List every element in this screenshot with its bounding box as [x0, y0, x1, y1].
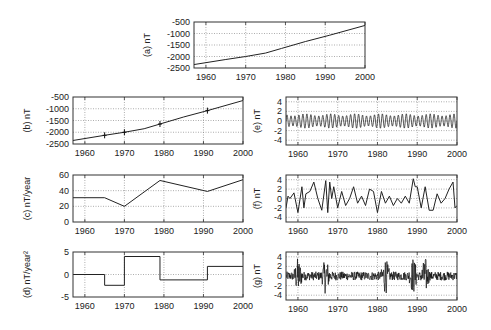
y-axis-label: (c) nT/year — [22, 177, 32, 221]
x-tick-label: 1990 — [407, 304, 427, 314]
x-tick-label: 1960 — [75, 301, 95, 311]
x-tick-label: 1990 — [407, 149, 427, 159]
x-tick-label: 1980 — [367, 149, 387, 159]
x-tick-label: 2000 — [233, 226, 253, 236]
x-tick-label: 2000 — [447, 149, 467, 159]
panel-d: 19601970198019902000-505(d) nT/year² — [22, 247, 253, 311]
y-axis-label: (d) nT/year² — [22, 251, 32, 298]
y-tick-label: -2500 — [167, 63, 190, 73]
y-tick-label: -4 — [274, 212, 282, 222]
y-tick-label: 5 — [64, 247, 69, 257]
series-line — [73, 180, 243, 207]
x-tick-label: 1980 — [367, 226, 387, 236]
panel-a: 19601970198019902000-500-1000-1500-2000-… — [142, 17, 375, 82]
y-tick-label: 4 — [277, 175, 282, 185]
x-tick-label: 1960 — [288, 226, 308, 236]
y-tick-label: 0 — [64, 217, 69, 227]
x-tick-label: 1980 — [367, 304, 387, 314]
y-tick-label: -2 — [274, 203, 282, 213]
panel-f: 19601970198019902000-4-2024(f) nT — [252, 175, 467, 236]
x-tick-label: 1980 — [154, 226, 174, 236]
y-tick-label: -1500 — [167, 40, 190, 50]
x-tick-label: 1990 — [315, 72, 335, 82]
y-tick-label: 0 — [277, 116, 282, 126]
x-tick-label: 1960 — [75, 226, 95, 236]
x-tick-label: 2000 — [447, 226, 467, 236]
y-tick-label: -1000 — [167, 29, 190, 39]
y-axis-label: (b) nT — [22, 108, 32, 133]
y-tick-label: 0 — [277, 271, 282, 281]
x-tick-label: 1970 — [114, 226, 134, 236]
y-axis-label: (e) nT — [252, 109, 262, 134]
y-tick-label: -4 — [274, 290, 282, 300]
x-tick-label: 1960 — [75, 148, 95, 158]
x-tick-label: 1990 — [193, 301, 213, 311]
y-axis-label: (a) nT — [142, 33, 152, 58]
panel-b: 19601970198019902000-500-1000-1500-2000-… — [22, 92, 253, 158]
y-tick-label: 2 — [277, 184, 282, 194]
y-tick-label: -2000 — [167, 52, 190, 62]
panel-c: 196019701980199020000204060(c) nT/year — [22, 170, 253, 236]
x-tick-label: 1980 — [275, 72, 295, 82]
series-line — [73, 257, 243, 286]
x-tick-label: 2000 — [233, 148, 253, 158]
y-tick-label: 4 — [277, 252, 282, 262]
x-tick-label: 1960 — [288, 304, 308, 314]
y-tick-label: -5 — [61, 292, 69, 302]
x-tick-label: 1960 — [288, 149, 308, 159]
y-tick-label: 2 — [277, 106, 282, 116]
y-axis-label: (g) nT — [252, 264, 262, 289]
y-tick-label: -500 — [172, 17, 190, 27]
figure: 19601970198019902000-500-1000-1500-2000-… — [0, 0, 491, 330]
y-tick-label: 0 — [277, 194, 282, 204]
x-tick-label: 1990 — [193, 148, 213, 158]
x-tick-label: 2000 — [447, 304, 467, 314]
y-tick-label: -2000 — [46, 127, 69, 137]
x-tick-label: 1970 — [236, 72, 256, 82]
panel-g: 19601970198019902000-4-2024(g) nT — [252, 252, 467, 314]
y-tick-label: 4 — [277, 97, 282, 107]
y-tick-label: 20 — [59, 201, 69, 211]
series-line — [286, 114, 457, 128]
y-tick-label: -4 — [274, 135, 282, 145]
y-tick-label: 60 — [59, 170, 69, 180]
y-tick-label: -2 — [274, 281, 282, 291]
y-axis-label: (f) nT — [252, 187, 262, 209]
y-tick-label: -1500 — [46, 116, 69, 126]
x-tick-label: 1970 — [328, 149, 348, 159]
y-tick-label: -1000 — [46, 104, 69, 114]
series-line — [286, 179, 457, 213]
x-tick-label: 1960 — [196, 72, 216, 82]
x-tick-label: 2000 — [355, 72, 375, 82]
y-tick-label: 2 — [277, 261, 282, 271]
x-tick-label: 1970 — [328, 304, 348, 314]
x-tick-label: 1990 — [193, 226, 213, 236]
y-tick-label: 0 — [64, 270, 69, 280]
y-tick-label: -2500 — [46, 139, 69, 149]
y-tick-label: -500 — [51, 92, 69, 102]
x-tick-label: 1990 — [407, 226, 427, 236]
panel-e: 19601970198019902000-4-2024(e) nT — [252, 97, 467, 159]
x-tick-label: 1980 — [154, 148, 174, 158]
x-tick-label: 1970 — [114, 301, 134, 311]
x-tick-label: 1980 — [154, 301, 174, 311]
y-tick-label: 40 — [59, 186, 69, 196]
y-tick-label: -2 — [274, 126, 282, 136]
x-tick-label: 2000 — [233, 301, 253, 311]
x-tick-label: 1970 — [328, 226, 348, 236]
x-tick-label: 1970 — [114, 148, 134, 158]
